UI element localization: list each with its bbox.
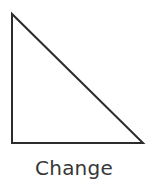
right-triangle-svg — [0, 0, 148, 152]
right-triangle-shape — [12, 14, 143, 143]
figure-caption: Change — [0, 156, 148, 180]
figure-card: Change — [0, 0, 148, 185]
figure-canvas — [0, 0, 148, 152]
